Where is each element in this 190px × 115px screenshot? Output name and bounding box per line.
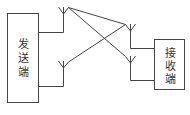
tx-antenna-1-icon [39, 7, 69, 33]
rx-antenna-2-icon [126, 56, 155, 81]
tx-antenna-2-icon [39, 61, 69, 87]
link-tx2-rx1 [69, 25, 126, 63]
transmitter-char-3: 端 [18, 66, 29, 79]
transmitter-char-1: 发 [18, 37, 29, 51]
receiver-char-3: 端 [165, 73, 176, 86]
mimo-diagram: 发 送 端 接 收 端 [0, 0, 190, 115]
transmitter-char-2: 送 [18, 51, 29, 65]
transmitter-label: 发 送 端 [18, 37, 29, 79]
link-tx1-rx2 [69, 8, 126, 57]
receiver-label: 接 收 端 [165, 47, 176, 86]
rx-antenna-1-icon [126, 24, 155, 49]
receiver-char-1: 接 [165, 47, 176, 60]
link-tx1-rx1 [69, 8, 126, 25]
receiver-char-2: 收 [165, 59, 176, 73]
